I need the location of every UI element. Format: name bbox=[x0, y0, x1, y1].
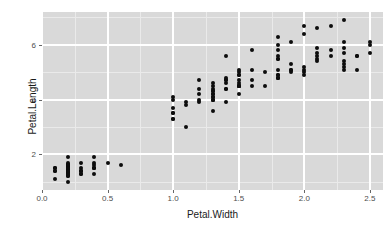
data-point bbox=[224, 100, 228, 104]
data-point bbox=[342, 65, 346, 69]
data-point bbox=[224, 76, 228, 80]
data-point bbox=[250, 48, 254, 52]
data-point bbox=[184, 103, 188, 107]
data-point bbox=[276, 57, 280, 61]
y-axis-title: Petal.Length bbox=[27, 47, 38, 167]
x-axis-tick-label: 1.0 bbox=[168, 194, 179, 203]
data-point bbox=[315, 59, 319, 63]
data-point bbox=[171, 95, 175, 99]
gridline-major-vertical bbox=[238, 12, 240, 190]
data-point bbox=[171, 117, 175, 121]
x-axis-tickmark bbox=[304, 190, 305, 193]
data-point bbox=[302, 73, 306, 77]
data-point bbox=[342, 51, 346, 55]
data-point bbox=[92, 166, 96, 170]
data-point bbox=[92, 155, 96, 159]
data-point bbox=[342, 18, 346, 22]
data-point bbox=[315, 46, 319, 50]
gridline-minor-horizontal bbox=[42, 182, 383, 183]
gridline-major-vertical bbox=[303, 12, 305, 190]
data-point bbox=[329, 24, 333, 28]
x-axis-tickmark bbox=[370, 190, 371, 193]
data-point bbox=[237, 68, 241, 72]
x-axis-title: Petal.Width bbox=[42, 209, 383, 220]
gridline-minor-horizontal bbox=[42, 17, 383, 18]
data-point bbox=[302, 32, 306, 36]
data-point bbox=[368, 51, 372, 55]
data-point bbox=[211, 109, 215, 113]
gridline-minor-vertical bbox=[75, 12, 76, 190]
data-point bbox=[250, 68, 254, 72]
scatter-plot-figure: 246 Petal.Width Petal.Length 0.00.51.01.… bbox=[0, 0, 390, 234]
data-point bbox=[224, 81, 228, 85]
data-point bbox=[342, 59, 346, 63]
gridline-minor-horizontal bbox=[42, 72, 383, 73]
x-axis-tick-label: 0.5 bbox=[102, 194, 113, 203]
x-axis-tick-label: 1.5 bbox=[233, 194, 244, 203]
data-point bbox=[211, 95, 215, 99]
data-point bbox=[289, 70, 293, 74]
data-point bbox=[119, 163, 123, 167]
data-point bbox=[342, 46, 346, 50]
data-point bbox=[315, 26, 319, 30]
gridline-major-vertical bbox=[42, 12, 43, 190]
x-axis-tick-label: 0.0 bbox=[36, 194, 47, 203]
data-point bbox=[302, 24, 306, 28]
data-point bbox=[211, 81, 215, 85]
gridline-minor-vertical bbox=[272, 12, 273, 190]
data-point bbox=[53, 169, 57, 173]
data-point bbox=[197, 87, 201, 91]
data-point bbox=[250, 78, 254, 82]
data-point bbox=[79, 161, 83, 165]
data-point bbox=[342, 40, 346, 44]
data-point bbox=[224, 54, 228, 58]
x-axis-tickmark bbox=[239, 190, 240, 193]
data-point bbox=[276, 35, 280, 39]
data-point bbox=[329, 54, 333, 58]
data-point bbox=[106, 161, 110, 165]
gridline-minor-vertical bbox=[206, 12, 207, 190]
data-point bbox=[263, 84, 267, 88]
gridline-major-horizontal bbox=[42, 44, 383, 46]
y-axis-tickmark bbox=[39, 45, 42, 46]
data-point bbox=[355, 68, 359, 72]
data-point bbox=[276, 76, 280, 80]
data-point bbox=[276, 68, 280, 72]
data-point bbox=[329, 48, 333, 52]
data-point bbox=[197, 92, 201, 96]
x-axis-tick-label: 2.0 bbox=[299, 194, 310, 203]
x-axis-tick-label: 2.5 bbox=[364, 194, 375, 203]
x-axis-tickmark bbox=[42, 190, 43, 193]
data-point bbox=[197, 78, 201, 82]
x-axis-tickmark bbox=[173, 190, 174, 193]
gridline-minor-vertical bbox=[140, 12, 141, 190]
gridline-minor-vertical bbox=[337, 12, 338, 190]
data-point bbox=[224, 87, 228, 91]
plot-panel bbox=[42, 12, 383, 190]
data-point bbox=[250, 84, 254, 88]
data-point bbox=[237, 84, 241, 88]
data-point bbox=[276, 43, 280, 47]
data-point bbox=[355, 54, 359, 58]
data-point bbox=[171, 106, 175, 110]
data-point bbox=[66, 155, 70, 159]
data-point bbox=[184, 125, 188, 129]
y-axis-tickmark bbox=[39, 154, 42, 155]
gridline-major-vertical bbox=[369, 12, 371, 190]
data-point bbox=[276, 48, 280, 52]
data-point bbox=[66, 180, 70, 184]
data-point bbox=[53, 177, 57, 181]
data-point bbox=[263, 70, 267, 74]
data-point bbox=[237, 92, 241, 96]
gridline-minor-horizontal bbox=[42, 127, 383, 128]
x-axis-tickmark bbox=[108, 190, 109, 193]
data-point bbox=[289, 62, 293, 66]
data-point bbox=[171, 111, 175, 115]
data-point bbox=[92, 172, 96, 176]
y-axis-tickmark bbox=[39, 100, 42, 101]
data-point bbox=[368, 40, 372, 44]
